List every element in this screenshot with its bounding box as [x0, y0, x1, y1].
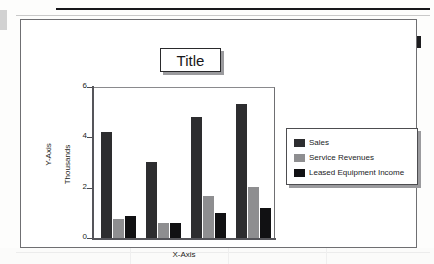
scan-faint-line — [326, 248, 327, 264]
legend-item-label: Sales — [309, 139, 329, 147]
bar[interactable] — [191, 117, 202, 238]
y-tick-label: 6 — [75, 82, 87, 90]
legend-item[interactable]: Sales — [294, 135, 417, 150]
screenshot-root: Title 6 4 2 0 Y-Axis Thousands X-Axis Sa… — [0, 0, 434, 264]
y-tick-0: 0 — [68, 233, 87, 242]
y-axis-units-label: Thousands — [63, 130, 72, 200]
bar[interactable] — [125, 216, 136, 239]
x-axis-title: X-Axis — [93, 250, 275, 259]
bar-group — [94, 88, 139, 238]
bar[interactable] — [170, 223, 181, 239]
bar[interactable] — [101, 132, 112, 238]
scan-artifact-left — [0, 10, 7, 30]
legend-item[interactable]: Service Revenues — [294, 150, 417, 165]
scan-artifact-right — [417, 36, 421, 48]
bar[interactable] — [146, 162, 157, 238]
bar-group — [184, 88, 229, 238]
x-axis-line — [92, 238, 276, 240]
y-tick-label: 2 — [75, 183, 87, 191]
bar[interactable] — [158, 223, 169, 238]
legend-item[interactable]: Leased Equipment Income — [294, 165, 417, 180]
chart-title-box[interactable]: Title — [160, 48, 221, 72]
page-top-rule-faint — [16, 15, 430, 16]
y-axis-title: Y-Axis — [44, 125, 53, 185]
legend-item-label: Service Revenues — [309, 154, 374, 162]
legend-swatch-icon — [294, 139, 305, 147]
bar-group — [229, 88, 274, 238]
bar[interactable] — [203, 196, 214, 239]
bar[interactable] — [236, 104, 247, 238]
bar-group — [139, 88, 184, 238]
y-tick-6: 6 — [68, 82, 87, 91]
legend-swatch-icon — [294, 169, 305, 177]
chart-legend[interactable]: SalesService RevenuesLeased Equipment In… — [286, 128, 418, 185]
page-top-rule — [56, 8, 430, 10]
y-tick-label: 0 — [75, 233, 87, 241]
page-title: Title — [177, 53, 205, 68]
chart-object-frame[interactable]: Title 6 4 2 0 Y-Axis Thousands X-Axis Sa… — [20, 19, 417, 248]
bar[interactable] — [248, 187, 259, 238]
y-tick-label: 4 — [75, 132, 87, 140]
legend-swatch-icon — [294, 154, 305, 162]
bar-series-layer[interactable] — [94, 88, 274, 238]
bar[interactable] — [113, 219, 124, 238]
legend-item-label: Leased Equipment Income — [309, 169, 404, 177]
bar[interactable] — [215, 213, 226, 238]
bar[interactable] — [260, 208, 271, 238]
